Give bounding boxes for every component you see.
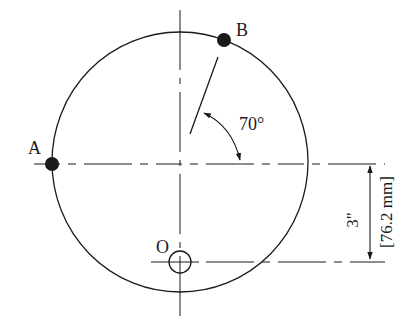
diagram-svg: A B O 70° 3" [76.2 mm] [0,0,417,322]
angle-arc [204,113,240,160]
point-b-label: B [236,20,248,40]
point-b-marker [217,33,231,47]
point-a-label: A [28,138,41,158]
point-o-label: O [156,237,169,257]
point-a-marker [45,157,59,171]
diagram-canvas: A B O 70° 3" [76.2 mm] [0,0,417,322]
dimension-imperial-label: 3" [343,212,362,227]
dimension-metric-label: [76.2 mm] [377,176,396,248]
angle-label: 70° [239,114,264,134]
angle-line [190,57,218,134]
